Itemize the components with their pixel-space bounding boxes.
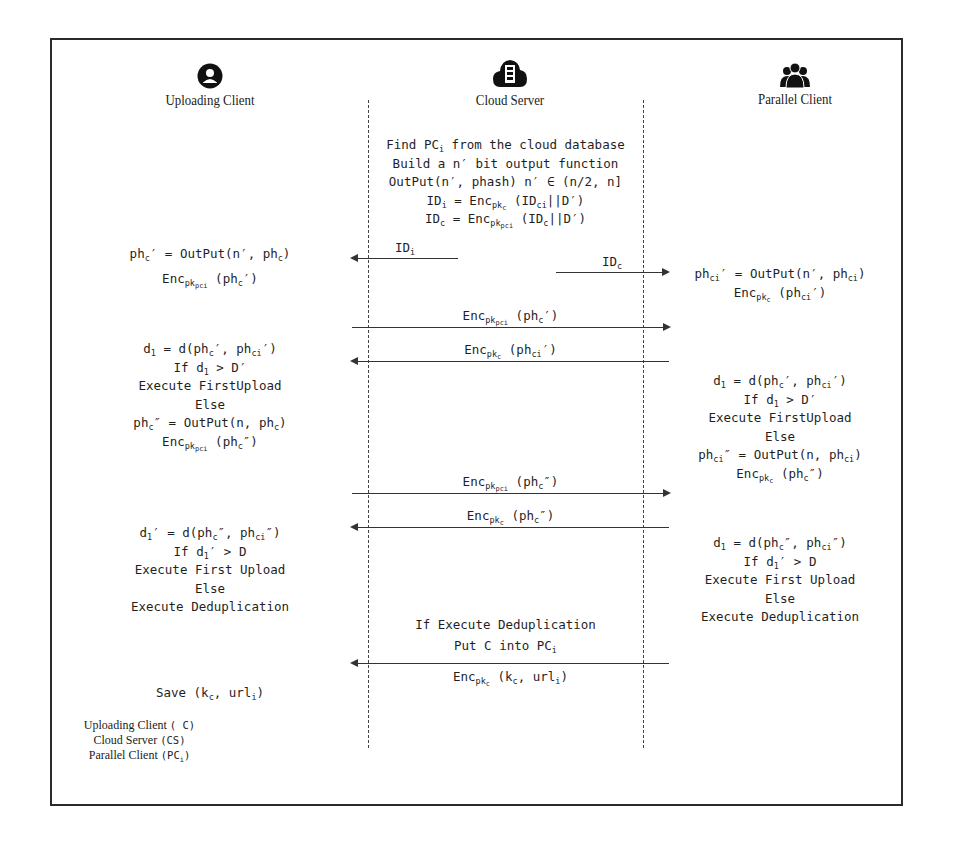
server-dedup-block: If Execute Deduplication Put C into PCi: [368, 616, 643, 655]
actor-label: Uploading Client: [136, 93, 283, 109]
message-label: IDi: [352, 240, 458, 255]
step-line: Else: [680, 590, 880, 609]
arrow-left-icon: [350, 357, 358, 365]
actor-cloud-server: Cloud Server: [430, 57, 590, 109]
user-circle-icon: [197, 63, 223, 89]
step-line: d1 = d(phc″, phci″): [680, 534, 880, 553]
legend-item-parallel-client: Parallel Client (PCi): [62, 748, 217, 768]
step-line: If d1′ > D: [110, 543, 310, 562]
step-line: Put C into PCi: [368, 637, 643, 656]
step-line: If d1 > D′: [110, 359, 310, 378]
step-line: Encpkpci (phc′): [110, 270, 310, 289]
parallel-client-decision-2: d1 = d(phc″, phci″) If d1′ > D Execute F…: [680, 534, 880, 627]
message-label: Encpkpci (phc′): [352, 308, 669, 323]
message-label: Encpkc (kc, urli): [352, 669, 669, 684]
step-line: d1 = d(phc′, phci′): [680, 372, 880, 391]
step-line: Else: [680, 428, 880, 447]
step-line: Encpkc (phc″): [680, 465, 880, 484]
arrow-left-icon: [350, 659, 358, 667]
step-line: phci′ = OutPut(n′, phci): [675, 265, 885, 284]
actor-label: Cloud Server: [436, 93, 583, 109]
uploading-client-decision-2: d1′ = d(phc″, phci″) If d1′ > D Execute …: [110, 524, 310, 617]
arrow-right-icon: [663, 323, 671, 331]
step-line: Execute First Upload: [680, 571, 880, 590]
step-line: Else: [110, 396, 310, 415]
step-line: Encpkc (phci′): [675, 284, 885, 303]
step-line: Save (kc, urli): [110, 684, 310, 703]
step-line: Execute FirstUpload: [110, 377, 310, 396]
uploading-client-save-step: Save (kc, urli): [110, 684, 310, 703]
step-line: Execute Deduplication: [110, 598, 310, 617]
server-setup-line: IDi = Encpkc (IDci||D′): [368, 192, 643, 211]
message-label: IDc: [556, 254, 668, 269]
step-line: Execute FirstUpload: [680, 409, 880, 428]
step-line: Execute Deduplication: [680, 608, 880, 627]
arrow-left-icon: [350, 523, 358, 531]
lifeline-server-parallel-divider: [643, 100, 644, 748]
message-label: Encpkpci (phc″): [352, 474, 669, 489]
message-arrow-enc-phci-prime: Encpkc (phci′): [352, 361, 669, 362]
uploading-client-decision-1: d1 = d(phc′, phci′) If d1 > D′ Execute F…: [110, 340, 310, 451]
actor-uploading-client: Uploading Client: [130, 63, 290, 109]
cloud-server-icon: [492, 57, 528, 89]
uploading-client-step-1: phc′ = OutPut(n′, phc) Encpkpci (phc′): [110, 245, 310, 288]
message-arrow-enc-phc-double-prime: Encpkpci (phc″): [352, 493, 669, 494]
arrow-right-icon: [662, 268, 670, 276]
step-line: If d1 > D′: [680, 391, 880, 410]
legend-item-uploading-client: Uploading Client ( C): [62, 718, 217, 733]
user-group-icon: [778, 62, 812, 88]
server-setup-line: IDc = Encpkpci (IDc||D′): [368, 210, 643, 229]
step-line: d1′ = d(phc″, phci″): [110, 524, 310, 543]
message-label: Encpkc (phci′): [352, 342, 669, 357]
message-arrow-enc-kc-url: Encpkc (kc, urli): [352, 663, 669, 664]
arrow-right-icon: [663, 489, 671, 497]
server-setup-line: Find PCi from the cloud database: [368, 136, 643, 155]
step-line: If Execute Deduplication: [368, 616, 643, 635]
message-arrow-enc-phc-prime: Encpkpci (phc′): [352, 327, 669, 328]
step-line: phc″ = OutPut(n, phc): [110, 414, 310, 433]
server-setup-line: OutPut(n′, phash) n′ ∈ (n/2, n]: [368, 173, 643, 192]
legend-item-cloud-server: Cloud Server (CS): [62, 733, 217, 748]
message-arrow-enc-phc-double-prime-return: Encpkc (phc″): [352, 527, 669, 528]
step-line: Encpkpci (phc″): [110, 433, 310, 452]
step-line: If d1′ > D: [680, 553, 880, 572]
step-line: Execute First Upload: [110, 561, 310, 580]
actor-label: Parallel Client: [721, 92, 868, 108]
step-line: phci″ = OutPut(n, phci): [680, 446, 880, 465]
server-setup-block: Find PCi from the cloud database Build a…: [368, 136, 643, 229]
message-arrow-idi: IDi: [352, 258, 458, 259]
step-line: phc′ = OutPut(n′, phc): [110, 245, 310, 264]
legend: Uploading Client ( C) Cloud Server (CS) …: [62, 718, 217, 768]
server-setup-line: Build a n′ bit output function: [368, 155, 643, 174]
step-line: d1 = d(phc′, phci′): [110, 340, 310, 359]
step-line: Else: [110, 580, 310, 599]
arrow-left-icon: [350, 254, 358, 262]
parallel-client-decision-1: d1 = d(phc′, phci′) If d1 > D′ Execute F…: [680, 372, 880, 483]
message-label: Encpkc (phc″): [352, 508, 669, 523]
message-arrow-idc: IDc: [556, 272, 668, 273]
parallel-client-step-1: phci′ = OutPut(n′, phci) Encpkc (phci′): [675, 265, 885, 302]
actor-parallel-client: Parallel Client: [715, 62, 875, 108]
